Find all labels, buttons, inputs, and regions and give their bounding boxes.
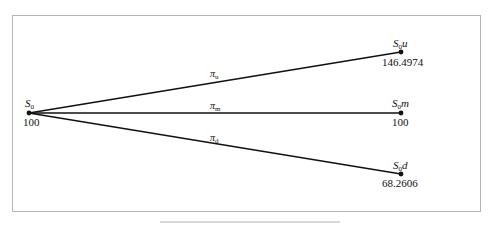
down-node-value: 68.2606: [382, 178, 418, 189]
root-node-label: S0: [25, 98, 34, 111]
prob-down-label: πd: [210, 133, 219, 145]
mid-node-label: S0m: [392, 98, 409, 111]
up-node-value: 146.4974: [382, 57, 423, 68]
root-node-value: 100: [23, 117, 40, 128]
down-node-label: S0d: [393, 160, 408, 173]
node-mid-dot: [399, 111, 404, 116]
prob-up-label: πu: [210, 69, 219, 81]
mid-node-value: 100: [392, 117, 409, 128]
tree-edges: [0, 0, 493, 225]
node-root-dot: [27, 111, 32, 116]
up-node-label: S0u: [393, 38, 408, 51]
figure-caption-clipped: [160, 220, 340, 223]
prob-mid-label: πm: [210, 101, 220, 113]
